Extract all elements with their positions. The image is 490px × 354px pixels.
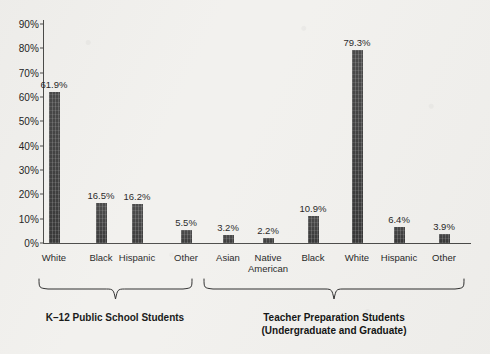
y-axis-tick-label: 80% xyxy=(19,43,39,54)
bar-value-label: 2.2% xyxy=(257,225,279,236)
group-caption: K–12 Public School Students xyxy=(46,312,184,325)
bar: 61.9% xyxy=(49,92,60,243)
y-axis-tick-label: 0% xyxy=(24,238,39,249)
group-caption-line: (Undergraduate and Graduate) xyxy=(261,325,406,338)
group-caption: Teacher Preparation Students(Undergradua… xyxy=(261,312,406,337)
y-axis-tick-mark xyxy=(40,72,44,73)
bar: 6.4% xyxy=(394,227,405,243)
y-axis-tick-mark xyxy=(40,24,44,25)
y-axis-tick-mark xyxy=(40,243,44,244)
category-label: White xyxy=(345,252,369,263)
y-axis-tick-label: 60% xyxy=(19,92,39,103)
bar-value-label: 5.5% xyxy=(175,217,197,228)
y-axis-tick-label: 10% xyxy=(19,213,39,224)
group-brace xyxy=(203,278,465,306)
category-label: Other xyxy=(174,252,198,263)
bar: 2.2% xyxy=(263,238,274,243)
group-caption-line: K–12 Public School Students xyxy=(46,312,184,325)
bar-chart-figure: 0%10%20%30%40%50%60%70%80%90% 61.9%16.5%… xyxy=(0,0,490,354)
bar-value-label: 61.9% xyxy=(41,79,68,90)
y-axis-tick-mark xyxy=(40,218,44,219)
bar: 5.5% xyxy=(181,230,192,243)
category-label: Other xyxy=(432,252,456,263)
bar-value-label: 3.2% xyxy=(217,222,239,233)
y-axis-tick-label: 50% xyxy=(19,116,39,127)
y-axis-tick-mark xyxy=(40,121,44,122)
category-label: Asian xyxy=(216,252,240,263)
y-axis-tick-label: 20% xyxy=(19,189,39,200)
group-caption-line: Teacher Preparation Students xyxy=(261,312,406,325)
y-axis-tick-label: 90% xyxy=(19,19,39,30)
y-axis-tick-mark xyxy=(40,48,44,49)
y-axis-tick-mark xyxy=(40,170,44,171)
y-axis-tick-label: 30% xyxy=(19,165,39,176)
y-axis-tick-label: 40% xyxy=(19,140,39,151)
category-label: Hispanic xyxy=(119,252,155,263)
category-label: Black xyxy=(89,252,112,263)
bar: 3.9% xyxy=(439,234,450,243)
bar: 3.2% xyxy=(223,235,234,243)
bar-value-label: 6.4% xyxy=(388,214,410,225)
y-axis-tick-mark xyxy=(40,97,44,98)
bar-value-label: 16.5% xyxy=(88,190,115,201)
bar-value-label: 16.2% xyxy=(124,191,151,202)
group-brace xyxy=(38,278,193,306)
y-axis-tick-mark xyxy=(40,194,44,195)
plot-area: 0%10%20%30%40%50%60%70%80%90% 61.9%16.5%… xyxy=(44,24,470,243)
category-label: Hispanic xyxy=(381,252,417,263)
bar: 10.9% xyxy=(308,216,319,243)
y-axis-tick-mark xyxy=(40,145,44,146)
bar-value-label: 3.9% xyxy=(433,221,455,232)
category-label: NativeAmerican xyxy=(248,252,288,274)
x-axis-line xyxy=(44,243,471,244)
category-label: White xyxy=(42,252,66,263)
y-axis-tick-label: 70% xyxy=(19,67,39,78)
category-label: Black xyxy=(301,252,324,263)
bar: 79.3% xyxy=(352,50,363,243)
bar-value-label: 10.9% xyxy=(300,203,327,214)
bar: 16.5% xyxy=(96,203,107,243)
bar-value-label: 79.3% xyxy=(344,37,371,48)
bar: 16.2% xyxy=(132,204,143,243)
